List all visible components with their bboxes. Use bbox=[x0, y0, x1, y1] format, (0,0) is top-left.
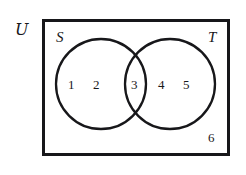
element-3: 3 bbox=[131, 78, 138, 91]
element-5: 5 bbox=[183, 78, 190, 91]
element-4: 4 bbox=[158, 78, 165, 91]
element-2: 2 bbox=[93, 78, 100, 91]
element-1: 1 bbox=[68, 78, 75, 91]
venn-diagram: U S T 1 2 3 4 5 6 bbox=[0, 0, 246, 175]
set-label-t: T bbox=[208, 30, 216, 45]
venn-diagram-canvas bbox=[0, 0, 246, 175]
set-label-s: S bbox=[56, 30, 64, 45]
element-6: 6 bbox=[208, 131, 215, 144]
universal-set-label: U bbox=[15, 22, 29, 38]
